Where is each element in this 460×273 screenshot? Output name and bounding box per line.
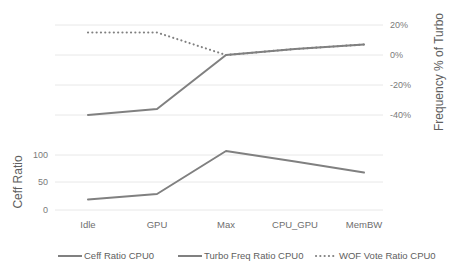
frequency-ytick-labels: 20% 0% -20% -40% [390, 20, 411, 120]
ceff-axis-title: Ceff Ratio [11, 155, 25, 208]
cat-label-cpu-gpu: CPU_GPU [272, 219, 318, 230]
legend-label-turbo-freq-ratio: Turbo Freq Ratio CPU0 [204, 250, 303, 261]
frequency-gridlines [55, 25, 383, 115]
ytick-label-0pct: 0% [390, 50, 403, 60]
cat-label-gpu: GPU [147, 219, 168, 230]
legend-item-wof-vote-ratio[interactable]: WOF Vote Ratio CPU0 [316, 250, 436, 261]
chart-figure: 20% 0% -20% -40% Frequency % of Turbo 10… [0, 0, 460, 273]
legend-label-wof-vote-ratio: WOF Vote Ratio CPU0 [339, 250, 436, 261]
combined-line-chart: 20% 0% -20% -40% Frequency % of Turbo 10… [0, 0, 460, 273]
series-line-ceff-ratio [88, 151, 364, 200]
ceff-ytick-labels: 100 50 0 [33, 150, 48, 215]
ytick-label-neg20pct: -20% [390, 80, 411, 90]
ytick-label-neg40pct: -40% [390, 110, 411, 120]
cat-label-membw: MemBW [346, 219, 382, 230]
ytick-label-50: 50 [38, 177, 48, 187]
ceff-gridlines [55, 155, 383, 210]
ytick-label-100: 100 [33, 150, 48, 160]
series-line-wof-vote-ratio [88, 33, 364, 56]
ytick-label-20pct: 20% [390, 20, 408, 30]
frequency-axis-title: Frequency % of Turbo [432, 13, 446, 131]
cat-label-idle: Idle [80, 219, 95, 230]
ceff-panel: 100 50 0 Ceff Ratio Idle GPU Max CPU_GPU… [11, 150, 383, 230]
legend-label-ceff-ratio: Ceff Ratio CPU0 [84, 250, 154, 261]
frequency-panel: 20% 0% -20% -40% Frequency % of Turbo [55, 13, 446, 131]
cat-label-max: Max [217, 219, 235, 230]
legend-item-turbo-freq-ratio[interactable]: Turbo Freq Ratio CPU0 [178, 250, 303, 261]
legend-item-ceff-ratio[interactable]: Ceff Ratio CPU0 [58, 250, 154, 261]
chart-legend: Ceff Ratio CPU0 Turbo Freq Ratio CPU0 WO… [58, 250, 436, 261]
category-axis-labels: Idle GPU Max CPU_GPU MemBW [80, 219, 382, 230]
ytick-label-0: 0 [43, 205, 48, 215]
